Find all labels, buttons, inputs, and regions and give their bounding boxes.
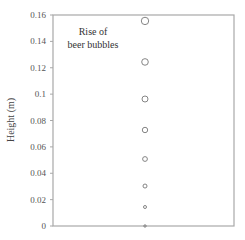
annotation-line-1: Rise of — [79, 26, 108, 37]
y-tick-label: 0.06 — [30, 142, 46, 152]
y-axis-label: Height (m) — [5, 98, 17, 142]
y-tick-label: 0.1 — [35, 89, 46, 99]
bubble-marker — [144, 206, 147, 209]
y-tick-label: 0.04 — [30, 168, 46, 178]
y-tick-label: 0.02 — [30, 195, 46, 205]
y-axis-ticks: 00.020.040.060.080.10.120.140.16 — [30, 10, 53, 231]
bubble-chart: 00.020.040.060.080.10.120.140.16 Height … — [0, 0, 245, 240]
bubble-marker — [143, 184, 147, 188]
bubble-marker — [142, 59, 149, 66]
y-tick-label: 0 — [42, 221, 47, 231]
y-tick-label: 0.14 — [30, 36, 46, 46]
annotation-line-2: beer bubbles — [68, 39, 119, 50]
bubble-marker — [141, 17, 148, 24]
y-tick-label: 0.08 — [30, 116, 46, 126]
bubble-marker — [142, 127, 147, 132]
y-tick-label: 0.16 — [30, 10, 46, 20]
bubble-markers — [141, 17, 148, 227]
bubble-marker — [143, 157, 148, 162]
y-tick-label: 0.12 — [30, 63, 46, 73]
bubble-marker — [142, 96, 148, 102]
